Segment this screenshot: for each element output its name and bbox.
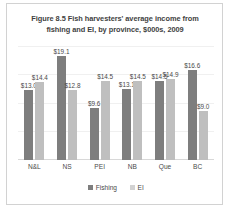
x-label-pei: PEI xyxy=(83,163,116,170)
x-label-ns: NS xyxy=(51,163,84,170)
bar-que-fishing[interactable] xyxy=(155,81,164,160)
bar-value-label: $9.0 xyxy=(197,103,209,110)
bar-bc-ei[interactable] xyxy=(199,111,208,160)
legend-swatch-icon-ei xyxy=(130,185,135,190)
chart-frame: Figure 8.5 Fish harvesters' average inco… xyxy=(6,3,223,205)
bar-wrap-nb-fishing: $13.1 xyxy=(122,46,131,160)
bar-wrap-ns-fishing: $19.1 xyxy=(57,46,66,160)
legend-label-fishing: Fishing xyxy=(96,184,117,191)
bar-ns-ei[interactable] xyxy=(68,90,77,160)
legend-swatch-icon-fishing xyxy=(88,185,93,190)
bar-ns-fishing[interactable] xyxy=(57,56,66,160)
bar-pei-ei[interactable] xyxy=(101,81,110,160)
bar-wrap-que-ei: $14.9 xyxy=(166,46,175,160)
x-label-bc: BC xyxy=(181,163,214,170)
bar-value-label: $14.4 xyxy=(32,74,48,81)
x-label-que: Que xyxy=(149,163,182,170)
bar-value-label: $9.6 xyxy=(88,100,100,107)
chart-title: Figure 8.5 Fish harvesters' average inco… xyxy=(17,14,213,35)
bar-value-label: $14.9 xyxy=(163,71,179,78)
legend-item-ei[interactable]: EI xyxy=(130,184,144,191)
plot-area: $13.0 $14.4 $19.1 $12.8 xyxy=(18,46,214,160)
bar-value-label: $14.5 xyxy=(130,73,146,80)
bar-group-nl: $13.0 $14.4 xyxy=(18,46,51,160)
chart-title-line-1: Figure 8.5 Fish harvesters' average inco… xyxy=(31,14,198,23)
x-label-nl: N&L xyxy=(18,163,51,170)
bar-group-ns: $19.1 $12.8 xyxy=(51,46,84,160)
bar-group-pei: $9.6 $14.5 xyxy=(83,46,116,160)
bar-wrap-bc-fishing: $16.6 xyxy=(188,46,197,160)
bar-nl-fishing[interactable] xyxy=(24,90,33,160)
bar-wrap-nl-ei: $14.4 xyxy=(35,46,44,160)
bar-wrap-bc-ei: $9.0 xyxy=(199,46,208,160)
bar-group-bc: $16.6 $9.0 xyxy=(181,46,214,160)
bar-group-que: $14.5 $14.9 xyxy=(149,46,182,160)
bar-nb-ei[interactable] xyxy=(133,81,142,160)
bar-wrap-ns-ei: $12.8 xyxy=(68,46,77,160)
bar-value-label: $12.8 xyxy=(65,82,81,89)
bar-wrap-nl-fishing: $13.0 xyxy=(24,46,33,160)
bar-wrap-que-fishing: $14.5 xyxy=(155,46,164,160)
legend-label-ei: EI xyxy=(138,184,144,191)
bar-que-ei[interactable] xyxy=(166,79,175,160)
bar-nl-ei[interactable] xyxy=(35,82,44,160)
bar-pei-fishing[interactable] xyxy=(90,108,99,160)
chart-title-line-2: fishing and EI, by province, $000s, 2009 xyxy=(46,25,183,34)
bar-groups: $13.0 $14.4 $19.1 $12.8 xyxy=(18,46,214,160)
bar-value-label: $14.5 xyxy=(97,73,113,80)
legend-item-fishing[interactable]: Fishing xyxy=(88,184,117,191)
chart-legend: Fishing EI xyxy=(18,184,214,191)
bar-group-nb: $13.1 $14.5 xyxy=(116,46,149,160)
bar-wrap-pei-fishing: $9.6 xyxy=(90,46,99,160)
bar-nb-fishing[interactable] xyxy=(122,89,131,160)
bar-wrap-pei-ei: $14.5 xyxy=(101,46,110,160)
x-axis-labels: N&L NS PEI NB Que BC xyxy=(18,163,214,170)
x-label-nb: NB xyxy=(116,163,149,170)
bar-bc-fishing[interactable] xyxy=(188,70,197,160)
bar-wrap-nb-ei: $14.5 xyxy=(133,46,142,160)
